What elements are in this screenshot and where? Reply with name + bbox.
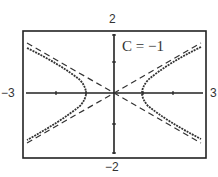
chart-annotation: C = −1 <box>122 38 164 54</box>
plot-area: C = −1 <box>0 0 218 177</box>
